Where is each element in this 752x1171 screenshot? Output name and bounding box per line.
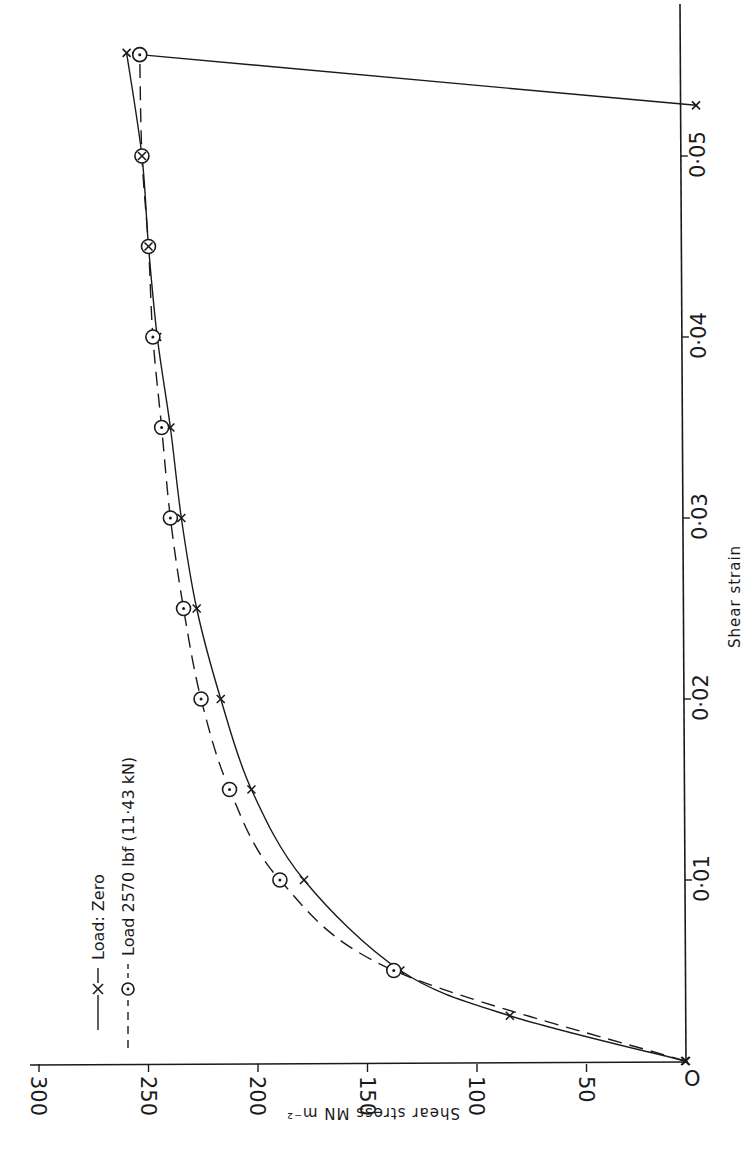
x-marker-icon — [93, 984, 103, 994]
origin-label: O — [684, 1067, 701, 1091]
stress-tick-label: 100 — [464, 1076, 488, 1116]
strain-tick-label: 0·02 — [689, 674, 713, 721]
circle-dot-marker-icon — [133, 48, 147, 62]
circle-cross-marker-icon — [135, 149, 149, 163]
legend-label-loaded: Load 2570 lbf (11·43 kN) — [119, 757, 138, 956]
series-line-2 — [140, 55, 696, 106]
x-marker-icon — [217, 695, 225, 703]
data-curves — [127, 53, 696, 1061]
x-axis-title: Shear strain — [726, 545, 744, 648]
circle-dot-marker-icon — [155, 421, 169, 435]
circle-dot-marker-icon — [122, 983, 134, 995]
stress-tick-label: 300 — [26, 1076, 50, 1116]
x-marker-icon — [300, 876, 308, 884]
strain-tick-label: 0·05 — [686, 131, 710, 178]
y-axis-title: Shear stress MN m⁻² — [286, 1104, 460, 1122]
stress-axis-line — [30, 1062, 688, 1065]
strain-tick-label: 0·03 — [688, 493, 712, 540]
legend-label-zero-load: Load: Zero — [89, 874, 108, 960]
stress-tick-label: 250 — [136, 1076, 160, 1116]
series-line-0 — [127, 53, 685, 1061]
strain-tick-label: 0·01 — [690, 855, 714, 902]
circle-dot-marker-icon — [273, 873, 287, 887]
stress-tick-label: 50 — [574, 1076, 598, 1103]
circle-dot-marker-icon — [146, 330, 160, 344]
circle-dot-marker-icon — [387, 964, 401, 978]
circle-cross-marker-icon — [142, 240, 156, 254]
circle-dot-marker-icon — [223, 783, 237, 797]
x-marker-icon — [506, 1012, 514, 1020]
circle-dot-marker-icon — [177, 602, 191, 616]
series-line-1 — [140, 55, 685, 1061]
x-marker-icon — [247, 786, 255, 794]
stress-strain-chart: 501001502002503000·010·020·030·040·05 Sh… — [0, 0, 752, 1171]
strain-tick-label: 0·04 — [687, 312, 711, 359]
circle-dot-marker-icon — [163, 511, 177, 525]
stress-tick-label: 200 — [245, 1076, 269, 1116]
circle-dot-marker-icon — [194, 692, 208, 706]
data-markers — [123, 48, 700, 1065]
legend: Load: Zero Load 2570 lbf (11·43 kN) — [89, 757, 138, 1048]
